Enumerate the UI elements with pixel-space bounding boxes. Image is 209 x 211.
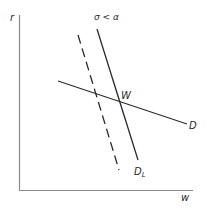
diagram-canvas: r w σ < α W D DL (0, 0, 209, 211)
x-axis-label: w (181, 192, 190, 203)
y-axis-label: r (10, 12, 15, 23)
shifted-labor-demand-curve-dashed (78, 35, 119, 170)
diagram-figure: r w σ < α W D DL (0, 0, 209, 211)
sigma-less-than-alpha-annotation: σ < α (94, 12, 119, 22)
curve-d-label: D (189, 120, 197, 131)
curve-dl-label: DL (134, 166, 146, 179)
demand-curve-d (58, 81, 187, 124)
point-w-label: W (121, 90, 132, 101)
labor-demand-curve-dl (97, 29, 138, 160)
curve-dl-label-subscript: L (142, 171, 146, 179)
